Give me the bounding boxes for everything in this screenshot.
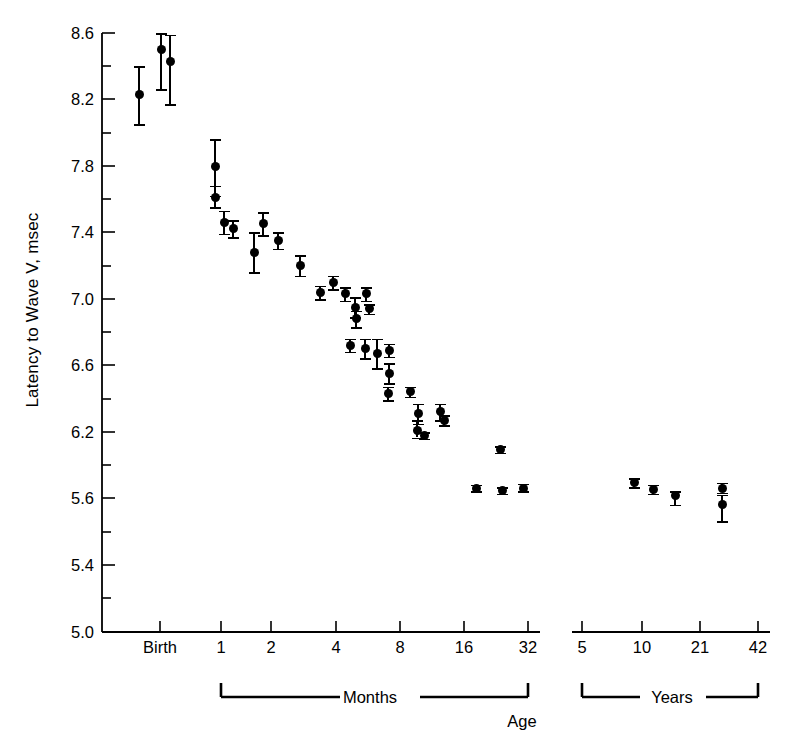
data-marker xyxy=(135,90,144,99)
error-cap-lower xyxy=(364,314,375,316)
error-cap-lower xyxy=(165,104,176,106)
y-tick-label: 5.4 xyxy=(38,556,94,575)
data-marker xyxy=(498,486,507,495)
data-marker xyxy=(365,304,374,313)
x-tick-label: 32 xyxy=(519,638,537,657)
data-marker xyxy=(220,218,229,227)
error-cap-lower xyxy=(295,276,306,278)
error-cap-lower xyxy=(156,89,167,91)
y-tick-label: 7.8 xyxy=(38,157,94,176)
x-tick-label: 16 xyxy=(455,638,473,657)
error-cap-lower xyxy=(670,505,681,507)
x-tick-label: Birth xyxy=(143,638,177,657)
x-tick-label: 1 xyxy=(216,638,225,657)
error-cap-lower xyxy=(405,397,416,399)
error-cap-lower xyxy=(351,327,362,329)
error-cap-upper xyxy=(315,286,326,288)
data-marker xyxy=(630,478,639,487)
error-cap-upper xyxy=(258,212,269,214)
data-marker xyxy=(496,445,505,454)
error-cap-lower xyxy=(439,425,450,427)
error-cap-lower xyxy=(219,234,230,236)
data-marker xyxy=(362,289,371,298)
years-bracket-label: Years xyxy=(651,688,693,707)
data-marker xyxy=(406,387,415,396)
error-cap-upper xyxy=(165,35,176,37)
data-marker xyxy=(440,416,449,425)
data-marker xyxy=(420,431,429,440)
error-cap-upper xyxy=(273,232,284,234)
data-marker xyxy=(211,193,220,202)
error-cap-lower xyxy=(249,272,260,274)
error-cap-upper xyxy=(717,495,728,497)
months-bracket-label: Months xyxy=(343,688,397,707)
error-bar xyxy=(160,33,162,89)
error-cap-lower xyxy=(717,521,728,523)
error-cap-upper xyxy=(249,232,260,234)
error-cap-upper xyxy=(384,344,395,346)
error-cap-lower xyxy=(360,358,371,360)
error-cap-upper xyxy=(413,404,424,406)
error-cap-lower xyxy=(648,494,659,496)
plot-canvas xyxy=(0,0,787,734)
data-marker xyxy=(352,314,361,323)
x-tick-label: 4 xyxy=(331,638,340,657)
error-cap-lower xyxy=(413,424,424,426)
error-cap-lower xyxy=(258,235,269,237)
error-cap-upper xyxy=(360,339,371,341)
error-cap-lower xyxy=(210,207,221,209)
error-cap-upper xyxy=(412,420,423,422)
x-tick-label: 10 xyxy=(633,638,651,657)
data-marker xyxy=(346,341,355,350)
data-marker xyxy=(718,500,727,509)
data-marker xyxy=(341,289,350,298)
error-cap-lower xyxy=(273,249,284,251)
y-tick-label: 7.0 xyxy=(38,290,94,309)
error-cap-upper xyxy=(134,66,145,68)
error-cap-lower xyxy=(361,301,372,303)
error-cap-upper xyxy=(435,404,446,406)
data-marker xyxy=(519,484,528,493)
data-marker xyxy=(385,346,394,355)
error-cap-lower xyxy=(384,357,395,359)
y-tick-label: 5.0 xyxy=(38,623,94,642)
x-tick-label: 8 xyxy=(395,638,404,657)
data-marker xyxy=(414,409,423,418)
x-tick-label: 2 xyxy=(266,638,275,657)
error-cap-lower xyxy=(629,487,640,489)
y-tick-label: 7.4 xyxy=(38,223,94,242)
error-cap-upper xyxy=(219,211,230,213)
data-marker xyxy=(472,484,481,493)
error-cap-upper xyxy=(328,276,339,278)
error-cap-lower xyxy=(315,299,326,301)
figure-latency-wave-v: Latency to Wave V, msec 8.68.27.87.47.06… xyxy=(0,0,787,734)
data-marker xyxy=(384,389,393,398)
x-tick-label: 42 xyxy=(749,638,767,657)
y-tick-label: 8.2 xyxy=(38,90,94,109)
y-tick-label: 8.6 xyxy=(38,24,94,43)
data-marker xyxy=(361,344,370,353)
error-bar xyxy=(169,35,171,104)
error-cap-upper xyxy=(210,139,221,141)
plot-area: 8.68.27.87.47.06.66.25.65.45.0 Birth1248… xyxy=(0,0,787,734)
data-marker xyxy=(649,485,658,494)
data-marker xyxy=(250,248,259,257)
data-marker xyxy=(316,288,325,297)
y-tick-label: 6.6 xyxy=(38,356,94,375)
y-tick-label: 5.6 xyxy=(38,489,94,508)
error-cap-upper xyxy=(384,363,395,365)
error-cap-upper xyxy=(295,255,306,257)
data-marker xyxy=(166,57,175,66)
data-marker xyxy=(259,219,268,228)
data-marker xyxy=(229,224,238,233)
x-axis-title: Age xyxy=(507,712,536,731)
data-marker xyxy=(274,236,283,245)
error-cap-lower xyxy=(372,368,383,370)
error-cap-lower xyxy=(345,352,356,354)
x-tick-label: 21 xyxy=(691,638,709,657)
data-marker xyxy=(296,261,305,270)
data-marker xyxy=(373,349,382,358)
error-cap-upper xyxy=(210,186,221,188)
data-marker xyxy=(385,369,394,378)
error-cap-lower xyxy=(228,237,239,239)
